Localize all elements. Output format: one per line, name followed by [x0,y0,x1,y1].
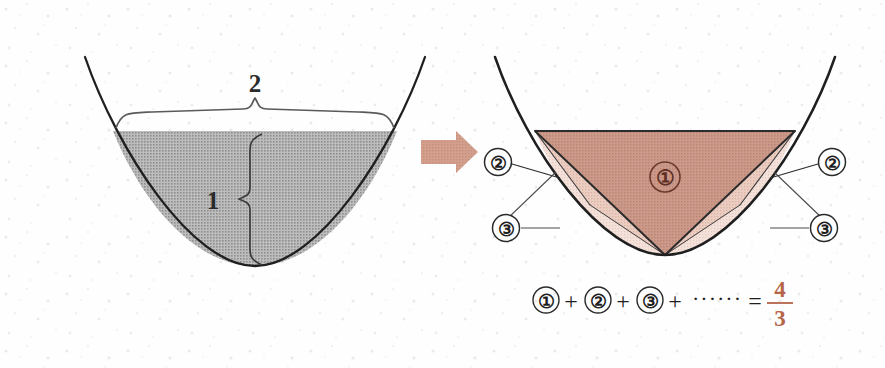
callout-2-right-label: ② [824,153,841,174]
callout-3-left-label: ③ [498,219,515,240]
callout-2-left-label: ② [490,153,507,174]
figure-root: 2 1 [0,0,885,368]
depth-brace-label: 1 [207,187,220,214]
eq-plus-2: + [616,288,630,314]
eq-equals: = [748,288,762,314]
width-brace-label: 2 [249,70,262,97]
eq-plus-3: + [668,288,682,314]
eq-term-1-label: ① [538,291,555,312]
eq-fraction-numerator: 4 [774,277,786,302]
eq-plus-1: + [564,288,578,314]
triangle-1-label: ① [656,166,675,190]
eq-term-2-label: ② [590,291,607,312]
eq-fraction-denominator: 3 [774,306,786,331]
eq-term-3-label: ③ [642,291,659,312]
eq-ellipsis: ······ [692,286,742,311]
quadrature-figure: 2 1 [0,0,885,368]
callout-3-right-label: ③ [816,219,833,240]
